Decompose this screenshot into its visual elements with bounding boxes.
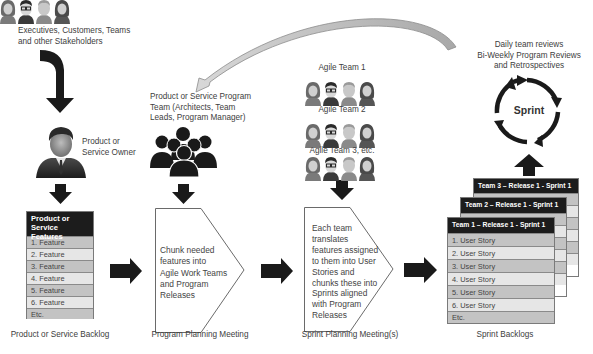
sprint-planning-text-line: Stories and — [312, 267, 378, 278]
program-planning-text-line: Agile Work Teams — [160, 268, 227, 279]
input-arrow-label: INPUT — [52, 66, 74, 96]
stakeholders-label: Executives, Customers, Teams and other S… — [18, 26, 158, 47]
backlog-row: 6. Feature — [27, 296, 93, 308]
reviews-label-line3: and Retrospectives — [465, 61, 593, 72]
sprint-planning-text-line: to them into User — [312, 256, 378, 267]
backlog-row: 3. Feature — [27, 260, 93, 272]
program-planning-caption: Program Planning Meeting — [140, 330, 260, 341]
program-planning-text-line: and Program — [160, 279, 227, 290]
backlog-row: 1. Feature — [27, 236, 93, 248]
backlog-row: Etc. — [448, 311, 554, 323]
backlog-row: Etc. — [27, 308, 93, 319]
agile-team-2-label: Agile Team 2 — [305, 105, 379, 116]
sprint-planning-text-line: chunks these into — [312, 278, 378, 289]
sprint-cycle-label: Sprint — [505, 104, 553, 116]
product-backlog-caption: Product or Service Backlog — [0, 330, 120, 341]
backlog-row: 2. Feature — [27, 248, 93, 260]
sprint-planning-text: Each team translates features assigned t… — [312, 223, 378, 321]
sprint-backlog-team1-header: Team 1 – Release 1 - Sprint 1 — [448, 218, 554, 233]
sprint-planning-text-line: with Program — [312, 299, 378, 310]
sprint-backlog-team1: Team 1 – Release 1 - Sprint 1 1. User St… — [447, 217, 555, 324]
reviews-label-line1: Daily team reviews — [465, 40, 593, 51]
product-backlog-header: Product or Service Features — [27, 212, 93, 236]
backlog-row: 2. User Story — [448, 246, 554, 259]
reviews-label: Daily team reviews Bi-Weekly Program Rev… — [465, 40, 593, 72]
backlog-row: 3. User Story — [448, 259, 554, 272]
backlog-row: 5. Feature — [27, 284, 93, 296]
sprint-planning-text-line: Each team — [312, 223, 378, 234]
program-team-label-line1: Product or Service Program — [150, 92, 270, 103]
sprint-planning-text-line: Sprints aligned — [312, 288, 378, 299]
program-team-label-line3: Leads, Program Manager) — [150, 113, 270, 124]
sprint-backlog-team2-header: Team 2 – Release 1 - Sprint 1 — [461, 198, 566, 213]
backlog-row: 4. User Story — [448, 272, 554, 285]
program-team-label: Product or Service Program Team (Archite… — [150, 92, 270, 124]
sprint-planning-text-line: Releases — [312, 310, 378, 321]
program-planning-text-line: Chunk needed — [160, 245, 227, 256]
program-planning-text-line: features into — [160, 256, 227, 267]
product-backlog-table: Product or Service Features 1. Feature 2… — [26, 211, 94, 319]
owner-label-line2: Service Owner — [82, 148, 136, 159]
backlog-row: 1. User Story — [448, 233, 554, 246]
sprint-backlogs-caption: Sprint Backlogs — [460, 330, 550, 341]
backlog-row: 4. Feature — [27, 272, 93, 284]
team-members-row-icon — [0, 0, 70, 24]
sprint-planning-caption: Sprint Planning Meeting(s) — [290, 330, 410, 341]
agile-team-3-label: Agile Team 3, etc. — [298, 146, 386, 157]
sprint-planning-text-line: translates — [312, 234, 378, 245]
sprint-planning-text-line: features assigned — [312, 245, 378, 256]
backlog-row: 5. User Story — [448, 285, 554, 298]
backlog-row: 6. User Story — [448, 298, 554, 311]
owner-label: Product or Service Owner — [82, 137, 136, 158]
agile-team-1-label: Agile Team 1 — [305, 63, 379, 74]
sprint-backlog-team3-header: Team 3 – Release 1 - Sprint 1 — [474, 179, 578, 193]
reviews-label-line2: Bi-Weekly Program Reviews — [465, 51, 593, 62]
program-planning-text: Chunk needed features into Agile Work Te… — [160, 245, 227, 301]
stakeholders-label-line1: Executives, Customers, Teams — [18, 26, 158, 37]
stakeholders-label-line2: and other Stakeholders — [18, 37, 158, 48]
owner-label-line1: Product or — [82, 137, 136, 148]
product-backlog-header-line1: Product or Service — [31, 214, 89, 232]
program-team-label-line2: Team (Architects, Team — [150, 103, 270, 114]
program-planning-text-line: Releases — [160, 290, 227, 301]
